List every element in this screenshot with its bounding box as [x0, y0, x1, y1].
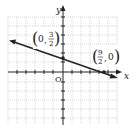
y-axis-label: y — [55, 5, 62, 15]
point-y-intercept — [61, 56, 65, 60]
y-axis-arrow-icon — [61, 5, 66, 11]
label-y-intercept: ( 0 , 3 2 ) — [32, 27, 60, 49]
svg-text:): ) — [54, 29, 60, 48]
svg-text:9: 9 — [98, 49, 102, 57]
coordinate-graph: y x O ( 0 , 3 2 ) ( 9 2 , 0 ) — [0, 0, 135, 133]
svg-text:3: 3 — [49, 31, 53, 39]
svg-text:2: 2 — [49, 40, 53, 48]
svg-text:): ) — [114, 47, 120, 66]
origin-label: O — [55, 75, 62, 84]
point-x-intercept — [102, 70, 106, 74]
label-x-intercept: ( 9 2 , 0 ) — [92, 45, 121, 67]
y-axis — [61, 5, 66, 125]
x-axis-label: x — [124, 71, 129, 81]
svg-text:2: 2 — [98, 58, 102, 66]
x-axis-arrow-icon — [116, 70, 122, 75]
svg-text:,: , — [104, 53, 107, 63]
svg-text:,: , — [44, 35, 47, 45]
